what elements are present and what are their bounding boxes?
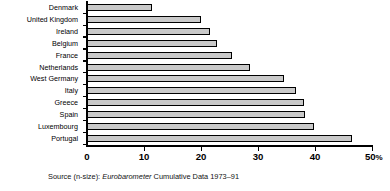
- bar-row: [87, 2, 372, 14]
- bar-row: [87, 121, 372, 133]
- bar-row: [87, 50, 372, 62]
- x-axis-tick: [201, 146, 202, 151]
- bar: [87, 28, 210, 35]
- x-axis-tick-label: 20: [196, 151, 207, 162]
- bar: [87, 40, 217, 47]
- bar: [87, 87, 296, 94]
- x-axis-tick-label: 40: [310, 151, 321, 162]
- bar-row: [87, 73, 372, 85]
- bar: [87, 135, 352, 142]
- plot-area: [87, 2, 372, 145]
- source-publication: Eurobarometer: [102, 172, 151, 181]
- category-label: United Kingdom: [0, 14, 82, 26]
- bar-row: [87, 85, 372, 97]
- bar: [87, 52, 232, 59]
- x-axis-tick-label: 30: [253, 151, 264, 162]
- bar: [87, 123, 314, 130]
- category-axis-labels: DenmarkUnited KingdomIrelandBelgiumFranc…: [0, 2, 82, 145]
- x-axis-tick-labels: 01020304050%: [87, 151, 372, 164]
- bar-row: [87, 14, 372, 26]
- x-axis-tick-label: 0: [84, 151, 89, 162]
- category-label: Portugal: [0, 133, 82, 145]
- category-label: Spain: [0, 109, 82, 121]
- source-prefix: Source (n-size):: [48, 172, 102, 181]
- category-label: Belgium: [0, 38, 82, 50]
- bar-chart: DenmarkUnited KingdomIrelandBelgiumFranc…: [0, 0, 390, 191]
- category-label: Netherlands: [0, 62, 82, 74]
- x-axis-tick-label: 50%: [365, 151, 383, 162]
- bar-row: [87, 38, 372, 50]
- x-axis-tick: [144, 146, 145, 151]
- source-suffix: Cumulative Data 1973–91: [152, 172, 240, 181]
- category-label: Ireland: [0, 26, 82, 38]
- source-note: Source (n-size): Eurobarometer Cumulativ…: [48, 172, 239, 181]
- x-axis-tick: [372, 146, 373, 151]
- bar-row: [87, 97, 372, 109]
- bar: [87, 16, 201, 23]
- percent-sign: %: [376, 153, 383, 162]
- bar: [87, 75, 284, 82]
- bar-row: [87, 133, 372, 145]
- bar: [87, 64, 250, 71]
- x-axis-tick: [315, 146, 316, 151]
- bar-row: [87, 62, 372, 74]
- category-label: France: [0, 50, 82, 62]
- category-label: Luxembourg: [0, 121, 82, 133]
- bar: [87, 4, 152, 11]
- category-label: Greece: [0, 97, 82, 109]
- bar-row: [87, 109, 372, 121]
- bar-row: [87, 26, 372, 38]
- category-label: Denmark: [0, 2, 82, 14]
- category-label: West Germany: [0, 73, 82, 85]
- x-axis-tick: [258, 146, 259, 151]
- category-label: Italy: [0, 85, 82, 97]
- bar: [87, 111, 305, 118]
- bar-rows: [87, 2, 372, 145]
- bar: [87, 99, 304, 106]
- x-axis-tick-label: 10: [139, 151, 150, 162]
